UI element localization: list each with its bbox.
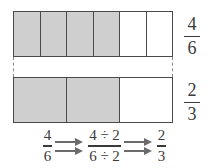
equation-end-denominator: 3 [157, 149, 167, 164]
equation-middle-numerator: 4 ÷ 2 [88, 128, 121, 143]
bar-bottom-cell-1 [14, 78, 67, 122]
fraction-label-bottom-numerator: 2 [181, 81, 203, 100]
bar-top-cell-5 [120, 12, 147, 56]
arrow-group-left [55, 137, 85, 155]
bar-top-cell-1 [14, 12, 41, 56]
arrow-shaft [124, 150, 146, 152]
equation-fraction-start: 4 6 [43, 128, 53, 163]
bar-bottom-cell-3 [120, 78, 172, 122]
arrow-shaft [124, 141, 146, 143]
equation-fraction-middle: 4 ÷ 2 6 ÷ 2 [88, 128, 121, 163]
arrow-head [144, 147, 152, 155]
equation-middle-divider [88, 145, 121, 146]
bar-top-cell-2 [41, 12, 68, 56]
equation-fraction-end: 2 3 [157, 128, 167, 163]
equation-end-numerator: 2 [157, 128, 167, 143]
arrow-head [144, 138, 152, 146]
fraction-bar-bottom [13, 77, 173, 123]
arrow-right-icon [124, 137, 154, 146]
fraction-label-bottom: 2 3 [181, 81, 203, 124]
fraction-label-bottom-denominator: 3 [181, 105, 203, 124]
simplification-equation: 4 6 4 ÷ 2 6 ÷ 2 [0, 126, 209, 166]
arrow-group-right [124, 137, 154, 155]
bar-top-cell-4 [94, 12, 121, 56]
fraction-bar-top [13, 11, 173, 57]
dashed-connector-left [13, 57, 14, 77]
equation-start-numerator: 4 [43, 128, 53, 143]
bar-bottom-cell-2 [67, 78, 120, 122]
bar-top-cell-3 [67, 12, 94, 56]
fraction-label-bottom-divider [184, 102, 200, 104]
arrow-right-icon [124, 146, 154, 155]
fraction-label-top-numerator: 4 [181, 15, 203, 34]
arrow-shaft [55, 141, 77, 143]
arrow-shaft [55, 150, 77, 152]
dashed-connector-right [172, 57, 173, 77]
bar-top-cell-6 [147, 12, 173, 56]
equivalent-fractions-figure: 4 6 2 3 4 6 [0, 0, 209, 168]
fraction-label-top-divider [184, 36, 200, 38]
arrow-right-icon [55, 146, 85, 155]
arrow-right-icon [55, 137, 85, 146]
fraction-label-top: 4 6 [181, 15, 203, 58]
equation-end-divider [157, 145, 167, 146]
arrow-head [75, 138, 83, 146]
equation-start-denominator: 6 [43, 149, 53, 164]
arrow-head [75, 147, 83, 155]
equation-middle-denominator: 6 ÷ 2 [88, 149, 121, 164]
equation-start-divider [43, 145, 53, 146]
fraction-label-top-denominator: 6 [181, 39, 203, 58]
